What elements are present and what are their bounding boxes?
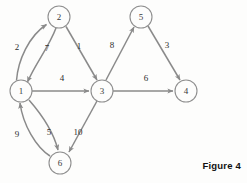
edge-weight-2-1: 7: [45, 43, 50, 53]
edge-weight-1-3: 4: [60, 73, 65, 83]
edge-weight-1-2: 2: [15, 42, 20, 52]
edge-weight-6-1: 9: [15, 129, 20, 139]
edge-3-to-5: [106, 27, 134, 80]
node-label-6: 6: [58, 158, 63, 168]
edge-2-to-3: [66, 27, 97, 81]
figure-container: 2 7 1 4 8 3 6 9 5 10 1 2 3: [0, 0, 247, 183]
edge-weight-2-3: 1: [77, 41, 82, 51]
node-6: 6: [49, 152, 71, 174]
edge-weight-3-5: 8: [110, 40, 115, 50]
node-2: 2: [48, 6, 70, 28]
node-3: 3: [91, 80, 113, 102]
edge-weight-5-4: 3: [165, 40, 170, 50]
node-5: 5: [130, 6, 152, 28]
edge-1-to-6: [29, 100, 58, 150]
figure-caption: Figure 4: [202, 160, 241, 171]
node-label-1: 1: [19, 86, 24, 96]
edge-6-to-1: [20, 103, 50, 156]
node-label-2: 2: [57, 12, 62, 22]
edge-weight-3-4: 6: [144, 73, 149, 83]
node-1: 1: [10, 80, 32, 102]
edge-weight-3-6: 10: [74, 127, 84, 137]
node-label-3: 3: [100, 86, 105, 96]
node-4: 4: [175, 80, 197, 102]
node-label-5: 5: [139, 12, 144, 22]
edge-weight-1-6: 5: [47, 127, 52, 137]
edge-2-to-1: [28, 28, 57, 82]
node-label-4: 4: [184, 86, 189, 96]
edge-5-to-4: [148, 26, 180, 80]
graph-diagram: 2 7 1 4 8 3 6 9 5 10 1 2 3: [0, 0, 247, 183]
